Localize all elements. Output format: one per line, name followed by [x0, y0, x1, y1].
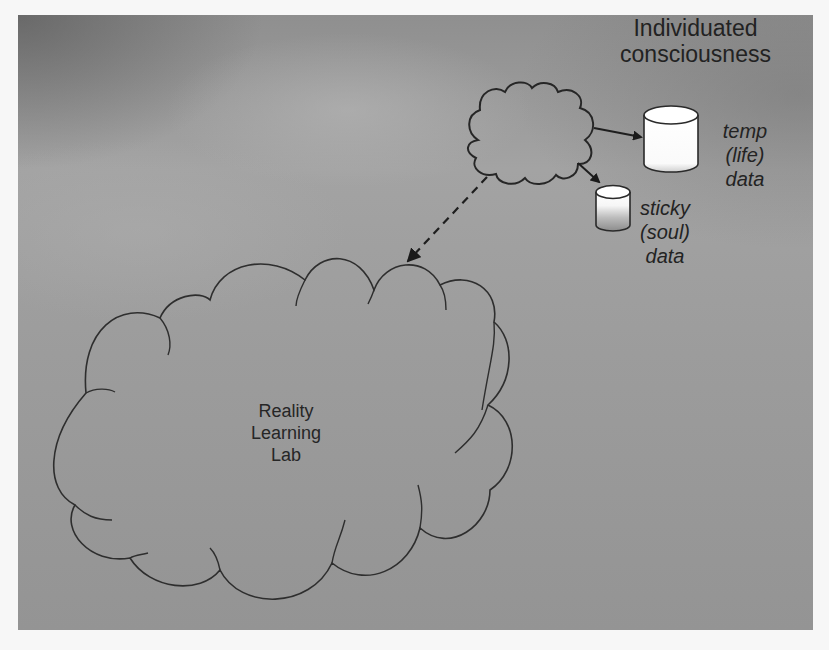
arrow-to-temp-data: [594, 128, 641, 137]
lab-label-line-3: Lab: [221, 444, 351, 466]
reality-learning-lab-label: Reality Learning Lab: [221, 400, 351, 466]
sticky-data-cylinder-icon: [596, 186, 630, 232]
title-line-2: consciousness: [558, 41, 829, 67]
temp-data-cylinder-icon: [644, 106, 698, 172]
sticky-label-line-2: (soul): [629, 220, 701, 244]
arrow-to-sticky-data: [578, 163, 599, 182]
diagram-title: Individuated consciousness: [558, 15, 829, 67]
temp-label-line-1: temp: [710, 119, 780, 143]
temp-label-line-3: data: [710, 167, 780, 191]
title-line-1: Individuated: [558, 15, 829, 41]
dashed-arrow-to-reality-lab: [408, 177, 487, 261]
sticky-label-line-1: sticky: [629, 196, 701, 220]
temp-label-line-2: (life): [710, 143, 780, 167]
temp-data-label: temp (life) data: [710, 119, 780, 191]
lab-label-line-1: Reality: [221, 400, 351, 422]
diagram-canvas: [0, 0, 829, 650]
sticky-label-line-3: data: [629, 244, 701, 268]
diagram-slide: Individuated consciousness temp (life) d…: [18, 15, 813, 630]
individuated-consciousness-cloud: [468, 82, 593, 184]
sticky-data-label: sticky (soul) data: [629, 196, 701, 268]
lab-label-line-2: Learning: [221, 422, 351, 444]
